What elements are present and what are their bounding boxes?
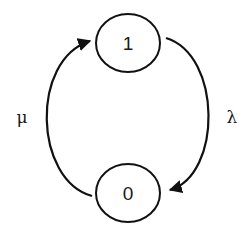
state-label-0: 0 — [123, 183, 134, 204]
state-node-0: 0 — [96, 164, 160, 222]
state-node-1: 1 — [96, 14, 160, 72]
transition-arrow-0-to-1 — [47, 41, 92, 196]
state-diagram: 1 0 μ λ — [0, 0, 246, 231]
state-label-1: 1 — [123, 33, 134, 54]
transition-arrow-1-to-0 — [166, 38, 209, 190]
rate-label-mu: μ — [16, 107, 27, 127]
rate-label-lambda: λ — [227, 107, 238, 127]
